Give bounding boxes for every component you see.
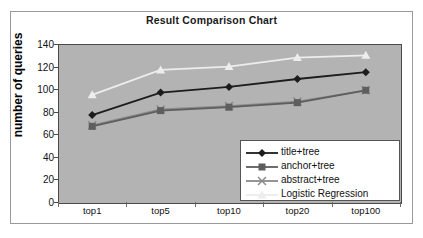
y-axis-tick-mark (54, 157, 58, 158)
data-point-diamond-icon (293, 75, 301, 83)
data-point-diamond-icon (88, 111, 96, 119)
legend-label: abstract+tree (279, 174, 340, 185)
legend-marker-diamond-icon (245, 145, 279, 157)
x-axis-tick-label: top100 (351, 205, 380, 216)
data-point-diamond-icon (157, 89, 165, 97)
y-axis-tick-label: 120 (26, 61, 54, 72)
y-axis-tick-label: 20 (26, 174, 54, 185)
data-point-square-icon (259, 164, 266, 171)
legend-marker-triangle-icon (245, 187, 279, 199)
x-axis-tick-mark (126, 202, 127, 207)
chart-title: Result Comparison Chart (0, 14, 423, 26)
y-axis-tick-mark (54, 112, 58, 113)
chart-figure: Result Comparison Chart number of querie… (0, 0, 423, 238)
legend-item-0[interactable]: title+tree (245, 144, 395, 158)
data-point-square-icon (362, 87, 369, 94)
x-axis-tick-mark (332, 202, 333, 207)
legend-label: anchor+tree (279, 160, 335, 171)
data-point-square-icon (89, 123, 96, 130)
y-axis-title: number of queries (11, 15, 25, 155)
legend-item-3[interactable]: Logistic Regression (245, 186, 395, 200)
data-point-diamond-icon (362, 68, 370, 76)
y-axis-tick-label: 60 (26, 129, 54, 140)
y-axis-tick-mark (54, 179, 58, 180)
y-axis-tick-label: 0 (26, 197, 54, 208)
x-axis-tick-mark (263, 202, 264, 207)
x-axis-tick-mark (195, 202, 196, 207)
legend-marker-x-icon (245, 173, 279, 185)
legend-label: Logistic Regression (279, 188, 368, 199)
x-axis-tick-label: top20 (286, 205, 310, 216)
x-axis-tick-label: top10 (217, 205, 241, 216)
y-axis-tick-label: 100 (26, 84, 54, 95)
y-axis-tick-mark (54, 134, 58, 135)
series-logistic-regression (88, 51, 371, 99)
data-point-diamond-icon (225, 83, 233, 91)
x-axis-ticklabels: top1top5top10top20top100 (58, 205, 402, 223)
data-point-square-icon (226, 104, 233, 111)
y-axis-tick-mark (54, 89, 58, 90)
data-point-square-icon (294, 99, 301, 106)
y-axis-tick-label: 140 (26, 39, 54, 50)
x-axis-tick-label: top5 (151, 205, 170, 216)
data-point-square-icon (157, 107, 164, 114)
y-axis-ticklabels: 020406080100120140 (24, 44, 54, 202)
y-axis-tick-mark (54, 67, 58, 68)
legend-label: title+tree (279, 146, 320, 157)
legend-item-1[interactable]: anchor+tree (245, 158, 395, 172)
x-axis-tick-label: top1 (83, 205, 102, 216)
y-axis-tick-label: 80 (26, 106, 54, 117)
legend-marker-square-icon (245, 159, 279, 171)
x-axis-tick-mark (58, 202, 59, 207)
y-axis-tick-label: 40 (26, 151, 54, 162)
series-title-tree (88, 68, 370, 119)
data-point-diamond-icon (258, 149, 266, 157)
chart-legend: title+tree anchor+tree abstract+tree Log… (240, 140, 400, 201)
legend-item-2[interactable]: abstract+tree (245, 172, 395, 186)
series-anchor-tree (89, 87, 370, 130)
x-axis-tick-mark (400, 202, 401, 207)
y-axis-tick-mark (54, 44, 58, 45)
